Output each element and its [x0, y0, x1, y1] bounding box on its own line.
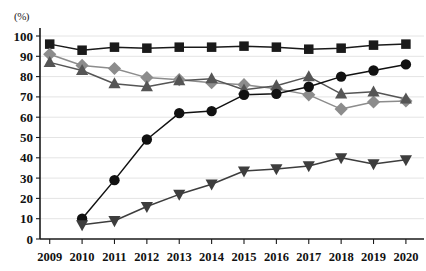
chart-plot-area: 0102030405060708090100 20092010201120122… — [0, 0, 426, 271]
data-point-circle — [304, 82, 314, 92]
data-point-circle — [401, 59, 411, 69]
data-point-square — [45, 39, 55, 49]
data-point-square — [304, 44, 314, 54]
data-point-square — [207, 42, 217, 52]
data-point-circle — [271, 89, 281, 99]
x-axis-tick-label: 2013 — [167, 250, 192, 264]
y-axis-tick-label: 100 — [14, 29, 34, 44]
y-axis-tick-label: 60 — [20, 110, 33, 125]
y-axis-tick-labels: 0102030405060708090100 — [14, 29, 34, 247]
data-point-circle — [336, 71, 346, 81]
data-point-triangle-up — [206, 72, 218, 83]
data-point-triangle-down — [367, 159, 379, 170]
series-line-square — [50, 44, 406, 50]
data-point-triangle-up — [44, 56, 56, 67]
x-axis-tick-label: 2010 — [70, 250, 95, 264]
data-point-triangle-down — [76, 220, 88, 231]
data-point-circle — [206, 106, 216, 116]
y-axis-tick-label: 40 — [20, 150, 33, 165]
x-axis-tick-label: 2017 — [296, 250, 321, 264]
y-axis-tick-label: 80 — [20, 69, 33, 84]
data-point-square — [174, 42, 184, 52]
gridlines-group — [40, 36, 424, 219]
data-point-square — [239, 41, 249, 51]
x-axis-tick-label: 2016 — [264, 250, 289, 264]
data-point-triangle-up — [367, 85, 379, 96]
data-point-square — [77, 45, 87, 55]
data-point-diamond — [335, 102, 348, 115]
y-axis-tick-label: 70 — [20, 89, 33, 104]
data-point-circle — [239, 90, 249, 100]
x-axis-tick-label: 2014 — [199, 250, 225, 264]
data-point-square — [142, 43, 152, 53]
x-axis-tick-label: 2015 — [232, 250, 257, 264]
data-point-circle — [368, 65, 378, 75]
data-point-square — [272, 42, 282, 52]
x-axis-tick-labels: 2009201020112012201320142015201620172018… — [37, 250, 418, 264]
data-point-triangle-up — [108, 77, 120, 88]
y-axis-tick-label: 20 — [20, 191, 33, 206]
y-axis-tick-label: 50 — [20, 130, 33, 145]
x-axis-tick-label: 2009 — [37, 250, 62, 264]
x-axis-tick-label: 2020 — [393, 250, 418, 264]
data-point-circle — [174, 108, 184, 118]
x-axis-tick-label: 2018 — [329, 250, 354, 264]
series-line-diamond — [50, 54, 406, 109]
x-axis-tick-label: 2011 — [102, 250, 126, 264]
data-point-triangle-down — [141, 202, 153, 213]
data-point-square — [369, 40, 379, 50]
y-axis-tick-label: 10 — [20, 211, 33, 226]
data-point-square — [336, 43, 346, 53]
y-axis-tick-label: 90 — [20, 49, 33, 64]
line-chart: (%) 0102030405060708090100 2009201020112… — [0, 0, 426, 271]
data-point-triangle-down — [238, 166, 250, 177]
data-point-circle — [142, 134, 152, 144]
data-point-square — [401, 39, 411, 49]
y-axis-tick-label: 0 — [27, 232, 34, 247]
x-axis-tick-label: 2019 — [361, 250, 386, 264]
series-markers-group — [43, 39, 412, 231]
data-point-triangle-up — [303, 70, 315, 81]
data-point-circle — [109, 175, 119, 185]
x-axis-tick-label: 2012 — [134, 250, 159, 264]
y-axis-tick-label: 30 — [20, 171, 33, 186]
data-point-diamond — [108, 62, 121, 75]
series-lines-group — [50, 44, 406, 225]
data-point-square — [110, 42, 120, 52]
